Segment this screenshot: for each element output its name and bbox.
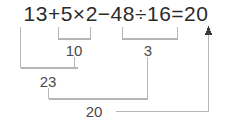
step-label-20: 20 bbox=[78, 103, 110, 120]
step-label-3: 3 bbox=[132, 42, 164, 59]
bracket-multiply bbox=[59, 27, 91, 39]
bracket-lines-group bbox=[0, 0, 232, 129]
arrow-up-icon bbox=[205, 26, 212, 35]
step-label-23: 23 bbox=[32, 73, 64, 90]
step-label-10: 10 bbox=[58, 42, 90, 59]
math-worked-example-diagram: 13+5×2−48÷16=20 10 3 23 20 bbox=[0, 0, 232, 129]
bracket-divide bbox=[123, 27, 178, 39]
